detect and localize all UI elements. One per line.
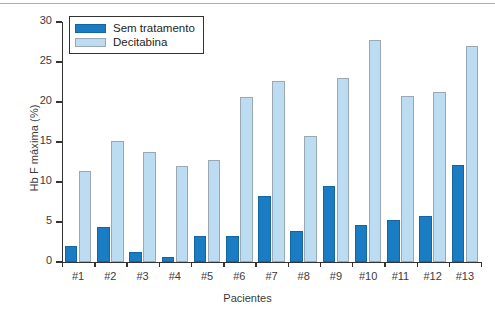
chart-plot-area: 051015202530 #1#2#3#4#5#6#7#8#9#10#11#12…: [0, 0, 495, 311]
bar-untreated: [419, 216, 432, 262]
y-axis-label: Hb F máxima (%): [28, 68, 40, 228]
x-tick-mark: [255, 262, 256, 267]
legend-swatch-decitabine: [75, 38, 106, 47]
y-tick-mark: [56, 61, 62, 62]
bar-decitabine: [272, 81, 285, 262]
y-tick-label: 0: [46, 254, 52, 266]
bar-decitabine: [240, 97, 253, 262]
bar-decitabine: [176, 166, 189, 262]
y-tick-mark: [56, 101, 62, 102]
x-tick-mark: [191, 262, 192, 267]
bar-decitabine: [304, 136, 317, 262]
bar-untreated: [129, 252, 142, 262]
y-axis-line: [62, 22, 63, 263]
y-tick-label: 30: [40, 14, 52, 26]
bar-untreated: [226, 236, 239, 262]
bar-untreated: [258, 196, 271, 262]
x-tick-mark: [417, 262, 418, 267]
bar-untreated: [452, 165, 465, 262]
bar-untreated: [194, 236, 207, 262]
bar-untreated: [162, 257, 175, 262]
bar-untreated: [323, 186, 336, 262]
bar-decitabine: [143, 152, 156, 262]
y-tick-label: 25: [40, 54, 52, 66]
legend-swatch-untreated: [75, 24, 106, 33]
legend-item-untreated: Sem tratamento: [75, 21, 195, 35]
legend-item-decitabine: Decitabina: [75, 35, 195, 49]
x-tick-mark: [320, 262, 321, 267]
bar-untreated: [355, 225, 368, 262]
bar-decitabine: [401, 96, 414, 262]
y-tick-label: 10: [40, 174, 52, 186]
y-tick-mark: [56, 21, 62, 22]
x-tick-mark: [223, 262, 224, 267]
bar-decitabine: [337, 78, 350, 262]
bar-untreated: [65, 246, 78, 262]
x-tick-mark: [94, 262, 95, 267]
bar-decitabine: [369, 40, 382, 262]
y-tick-label: 5: [46, 214, 52, 226]
bar-untreated: [387, 220, 400, 262]
bar-decitabine: [433, 92, 446, 262]
x-axis-label: Pacientes: [0, 292, 495, 304]
legend-label-untreated: Sem tratamento: [113, 22, 195, 34]
x-tick-mark: [449, 262, 450, 267]
y-tick-label: 15: [40, 134, 52, 146]
bar-untreated: [290, 231, 303, 262]
chart-legend: Sem tratamento Decitabina: [69, 16, 204, 54]
bar-decitabine: [79, 171, 92, 262]
x-tick-mark: [481, 262, 482, 267]
x-tick-mark: [384, 262, 385, 267]
legend-label-decitabine: Decitabina: [113, 36, 167, 48]
x-tick-mark: [288, 262, 289, 267]
bar-decitabine: [111, 141, 124, 262]
y-tick-mark: [56, 221, 62, 222]
y-tick-mark: [56, 141, 62, 142]
y-tick-mark: [56, 181, 62, 182]
x-axis-line: [62, 262, 481, 263]
y-tick-label: 20: [40, 94, 52, 106]
bar-decitabine: [208, 160, 221, 262]
x-tick-mark: [62, 262, 63, 267]
x-tick-mark: [126, 262, 127, 267]
x-tick-mark: [159, 262, 160, 267]
figure: 051015202530 #1#2#3#4#5#6#7#8#9#10#11#12…: [0, 0, 495, 311]
bar-decitabine: [466, 46, 479, 262]
x-tick-label: #13: [445, 270, 485, 282]
bar-untreated: [97, 227, 110, 262]
x-tick-mark: [352, 262, 353, 267]
